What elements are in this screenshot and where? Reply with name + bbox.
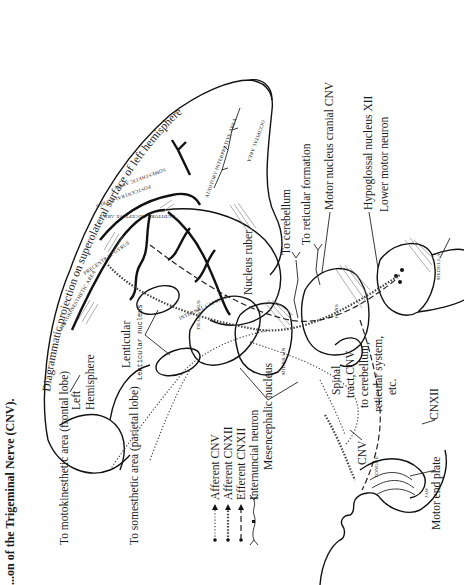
spinal-tract-label-4: reticular system,	[372, 336, 385, 412]
svg-text:Efferent CNXII: Efferent CNXII	[235, 428, 247, 500]
lenticular-sublabel: Lenticular nucleus	[136, 304, 144, 380]
nucleus-ruber-label: Nucleus ruber	[242, 230, 254, 295]
head-profile	[320, 450, 446, 585]
medulla	[377, 238, 464, 315]
diagram-page: ...on of the Trigeminal Nerve (CNV). Dia…	[0, 0, 464, 585]
legend-item-internuncial-neuron: Internuncial neuron	[248, 409, 260, 545]
spinal-tract-label-3: to cerebellum,	[358, 342, 371, 408]
cnxii-lower	[325, 415, 355, 480]
medulla-leader	[440, 238, 450, 258]
legend-item-afferent-cnv: Afferent CNV	[209, 433, 221, 541]
spinal-tract-label-1: Spinal	[330, 366, 343, 395]
legend-item-afferent-cnxii: Afferent CNXII	[222, 426, 234, 542]
cnxii-label: CNXII	[428, 388, 440, 420]
jaw-label: JAW	[424, 487, 429, 498]
hemisphere-label-left: Left	[70, 390, 82, 410]
auditory-receptive-area-label: AUDITORY RECEPTIVE AREA	[100, 214, 175, 219]
svg-text:Afferent CNXII: Afferent CNXII	[222, 426, 234, 500]
midbrain-label: MIDBRAIN	[281, 347, 286, 375]
svg-text:Internuncial neuron: Internuncial neuron	[248, 409, 260, 500]
legend-item-efferent-cnxii: Efferent CNXII	[235, 428, 247, 542]
cnv-label: CNV	[356, 440, 368, 465]
legend: Afferent CNV Afferent CNXII Efferent CNX…	[209, 409, 260, 545]
hemisphere-label-hemisphere: Hemisphere	[84, 354, 97, 410]
hypoglossal-nucleus-label: Hypoglossal nucleus XII	[362, 95, 375, 210]
motor-end-plate-label: Motor end plate	[430, 457, 443, 530]
mesencephalic-nucleus-label: Mesencephalic nucleus	[262, 363, 275, 470]
reticular-fiber	[316, 250, 320, 285]
tongue-label: TONGUE	[374, 456, 379, 478]
afferent-cnv-path-parietal	[150, 370, 190, 460]
occipital-area-label: OCCIPITAL AREA	[246, 120, 266, 163]
lower-motor-neuron-label: Lower motor neuron	[378, 117, 390, 212]
cerebellum-fiber	[294, 260, 298, 318]
to-reticular-label: To reticular formation	[300, 143, 312, 245]
efferent-cnxii-path	[150, 245, 398, 321]
to-cerebellum-label: To cerebellum	[280, 189, 292, 255]
spinal-tract-label-5: etc.	[386, 379, 398, 395]
svg-text:Afferent CNV: Afferent CNV	[209, 433, 221, 500]
spinal-tract-label-2: tract,CNV	[344, 350, 357, 398]
trigeminal-nerve-diagram: ...on of the Trigeminal Nerve (CNV). Dia…	[0, 0, 464, 585]
figure-title: ...on of the Trigeminal Nerve (CNV).	[3, 398, 17, 585]
sulcus-branch	[172, 140, 190, 175]
to-somesthetic-label: To somesthetic area (parietal lobe)	[128, 386, 141, 545]
lenticular-label: Lenticular	[120, 321, 132, 368]
motor-nucleus-label: Motor nucleus cranial CNV	[323, 81, 335, 210]
